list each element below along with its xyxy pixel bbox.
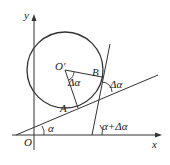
coordinate-axes: [12, 14, 162, 150]
diagram-canvas: y x O O' A B Δα Δα α α+Δα: [0, 0, 170, 165]
point-b-label: B: [92, 66, 99, 78]
y-axis-label: y: [23, 9, 29, 21]
center-label: O': [55, 60, 66, 72]
alpha-angle-arc: [42, 126, 44, 135]
geometry-figure: y x O O' A B Δα Δα α α+Δα: [0, 0, 170, 165]
central-angle-label: Δα: [67, 76, 80, 88]
tangent-angle-label: Δα: [109, 78, 122, 90]
origin-label: O: [24, 136, 32, 148]
x-axis-label: x: [151, 138, 157, 150]
x-axis-arrow-icon: [155, 133, 162, 138]
alpha-label: α: [48, 122, 54, 134]
point-a-label: A: [59, 102, 67, 114]
tangent-line-alpha: [16, 75, 158, 135]
y-axis-arrow-icon: [32, 14, 37, 21]
alpha-plus-delta-label: α+Δα: [102, 120, 128, 132]
